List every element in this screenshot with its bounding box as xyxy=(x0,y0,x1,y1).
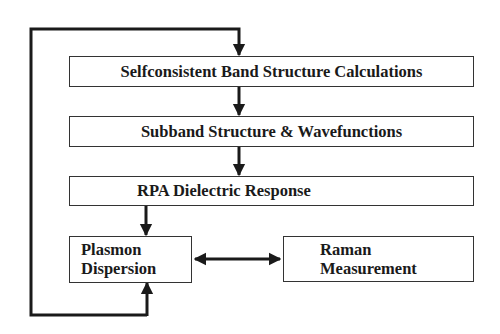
node-subband-structure: Subband Structure & Wavefunctions xyxy=(69,116,474,147)
node-label: Subband Structure & Wavefunctions xyxy=(141,122,402,142)
node-label: RPA Dielectric Response xyxy=(70,181,311,201)
node-raman-measurement: Raman Measurement xyxy=(283,236,474,282)
node-label-line2: Dispersion xyxy=(81,259,191,278)
node-label-line1: Plasmon xyxy=(81,240,191,259)
node-rpa-response: RPA Dielectric Response xyxy=(69,176,474,206)
node-label: Selfconsistent Band Structure Calculatio… xyxy=(121,62,423,82)
node-label-line1: Raman xyxy=(320,240,473,259)
node-plasmon-dispersion: Plasmon Dispersion xyxy=(69,236,192,283)
node-band-structure: Selfconsistent Band Structure Calculatio… xyxy=(69,56,474,87)
node-label-line2: Measurement xyxy=(320,259,473,278)
connector-lines xyxy=(0,0,500,334)
